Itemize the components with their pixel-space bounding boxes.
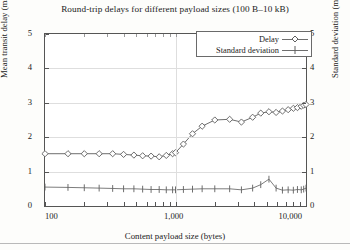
y-axis-left-label: 3 <box>22 97 38 107</box>
chart-title: Round-trip delays for different payload … <box>0 4 350 14</box>
legend-marker-diamond-icon <box>282 34 308 44</box>
x-axis-tick <box>277 202 278 206</box>
x-axis-tick <box>45 202 46 206</box>
data-point-marker-diamond <box>148 153 154 159</box>
data-point-marker-diamond <box>42 151 48 157</box>
x-axis-tick <box>238 202 239 206</box>
y-axis-left-label: 5 <box>22 28 38 38</box>
x-axis-label: 10,000 <box>278 211 302 221</box>
y-axis-left-tick <box>45 206 49 207</box>
y-axis-right-tick <box>302 137 306 138</box>
y-axis-right-tick <box>302 103 306 104</box>
y-axis-left-tick <box>45 172 49 173</box>
x-axis-tick <box>155 202 156 206</box>
data-point-marker-diamond <box>163 152 169 158</box>
data-point-marker-diamond <box>156 154 162 160</box>
x-axis-tick-top <box>163 34 164 37</box>
data-point-marker-diamond <box>273 109 279 115</box>
y-axis-right-tick <box>302 68 306 69</box>
x-axis-tick-top <box>147 34 148 37</box>
data-point-marker-diamond <box>65 151 71 157</box>
x-axis-label: 100 <box>45 211 58 221</box>
y-axis-right-tick <box>302 206 306 207</box>
legend-label-stddev: Standard deviation <box>216 46 279 55</box>
x-axis-tick-top <box>176 34 177 37</box>
y-axis-left-label: 1 <box>22 166 38 176</box>
x-axis-tick <box>84 202 85 206</box>
x-axis-label: 1,000 <box>164 211 183 221</box>
data-point-marker-diamond <box>227 116 233 122</box>
figure: Round-trip delays for different payload … <box>0 0 350 250</box>
y-axis-left-label: 2 <box>22 131 38 141</box>
plot-area <box>44 33 307 207</box>
x-axis-tick-top <box>84 34 85 37</box>
y-axis-right-label: 3 <box>310 97 326 107</box>
y-axis-left-label: 4 <box>22 62 38 72</box>
data-point-marker-diamond <box>81 151 87 157</box>
x-axis-tick <box>107 202 108 206</box>
data-point-marker-diamond <box>258 110 264 116</box>
x-axis-tick <box>254 202 255 206</box>
x-axis-tick-top <box>136 34 137 37</box>
y-axis-right-tick <box>302 172 306 173</box>
x-axis-tick <box>300 202 301 206</box>
x-axis-tick <box>176 202 177 206</box>
legend: Delay Standard deviation <box>196 31 312 57</box>
data-point-marker-diamond <box>120 151 126 157</box>
y-axis-right-label: 1 <box>310 166 326 176</box>
x-axis-tick-top <box>155 34 156 37</box>
data-point-marker-diamond <box>279 108 285 114</box>
y-axis-left-title: Mean transit delay (ms) <box>0 0 9 78</box>
x-axis-tick <box>215 202 216 206</box>
x-axis-tick <box>147 202 148 206</box>
y-axis-left-tick <box>45 103 49 104</box>
x-axis-tick-top <box>107 34 108 37</box>
x-axis-title: Content payload size (bytes) <box>0 231 350 241</box>
page-rule <box>0 243 350 244</box>
y-axis-right-label: 2 <box>310 131 326 141</box>
x-axis-tick <box>267 202 268 206</box>
legend-marker-plus-icon <box>282 45 308 55</box>
data-point-marker-diamond <box>110 151 116 157</box>
x-axis-tick <box>124 202 125 206</box>
y-axis-right-label: 0 <box>310 200 326 210</box>
x-axis-tick <box>136 202 137 206</box>
data-point-marker-diamond <box>140 153 146 159</box>
data-point-marker-diamond <box>285 107 291 113</box>
x-axis-tick <box>286 202 287 206</box>
y-axis-left-tick <box>45 137 49 138</box>
y-axis-left-label: 0 <box>22 200 38 210</box>
x-axis-tick-top <box>170 34 171 37</box>
gridline-vertical <box>176 34 177 206</box>
x-axis-tick <box>163 202 164 206</box>
y-axis-right-title: Standard deviation (ms) <box>330 0 340 78</box>
data-point-marker-diamond <box>96 151 102 157</box>
x-axis-tick-top <box>124 34 125 37</box>
y-axis-right-label: 5 <box>310 28 326 38</box>
data-point-marker-diamond <box>266 109 272 115</box>
legend-label-delay: Delay <box>259 35 279 44</box>
data-point-marker-diamond <box>250 114 256 120</box>
data-point-marker-diamond <box>238 119 244 125</box>
legend-item-stddev: Standard deviation <box>216 44 308 56</box>
data-point-marker-diamond <box>212 117 218 123</box>
x-axis-tick <box>293 202 294 206</box>
y-axis-left-tick <box>45 68 49 69</box>
data-point-marker-diamond <box>131 152 137 158</box>
x-axis-tick <box>170 202 171 206</box>
y-axis-right-label: 4 <box>310 62 326 72</box>
x-axis-tick-top <box>45 34 46 37</box>
